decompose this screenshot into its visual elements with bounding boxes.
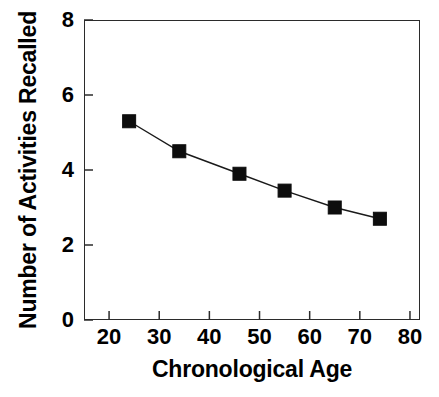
y-axis-ticks [84, 20, 93, 320]
x-tick-label: 50 [235, 326, 285, 348]
y-tick-label: 0 [34, 309, 74, 331]
y-tick-label: 4 [34, 159, 74, 181]
y-tick-label: 8 [34, 9, 74, 31]
data-point-marker [373, 212, 386, 225]
x-tick-label: 20 [84, 326, 134, 348]
y-tick-label: 2 [34, 234, 74, 256]
x-tick-label: 40 [184, 326, 234, 348]
x-tick-label: 60 [285, 326, 335, 348]
data-point-marker [278, 184, 291, 197]
data-point-marker [233, 167, 246, 180]
x-axis-ticks [109, 311, 410, 320]
x-tick-label: 80 [385, 326, 435, 348]
plot-svg [84, 20, 420, 320]
series-line [129, 121, 380, 219]
y-tick-label: 6 [34, 84, 74, 106]
data-point-marker [173, 145, 186, 158]
x-axis-title: Chronological Age [84, 356, 420, 383]
x-tick-label: 70 [335, 326, 385, 348]
chart-figure: Number of Activities Recalled 02468 2030… [0, 0, 439, 397]
data-point-marker [123, 115, 136, 128]
data-point-marker [328, 201, 341, 214]
x-tick-label: 30 [134, 326, 184, 348]
series-markers [123, 115, 387, 226]
